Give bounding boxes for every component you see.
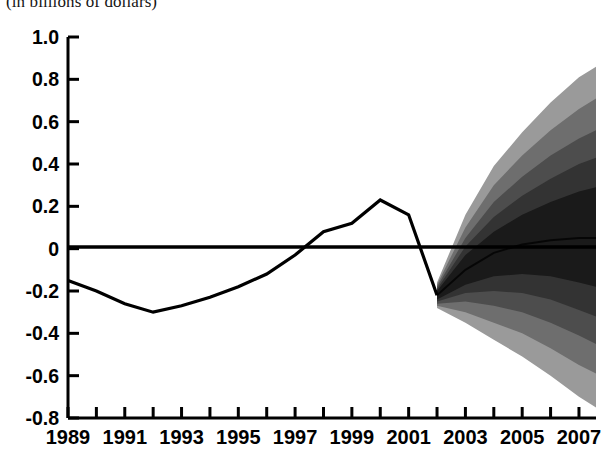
x-tick-label: 2003 — [443, 426, 488, 448]
x-tick-label: 1989 — [46, 426, 91, 448]
y-axis-ticks — [68, 37, 79, 418]
projection-fan-bands — [437, 67, 596, 408]
y-tick-label: 0.4 — [32, 153, 59, 175]
y-tick-label: 1.0 — [32, 26, 59, 48]
fan-chart-plot: 1.00.80.60.40.20-0.2-0.4-0.6-0.8 1989199… — [0, 0, 607, 463]
y-tick-label: 0.6 — [32, 111, 59, 133]
x-tick-label: 1995 — [216, 426, 261, 448]
x-axis-tick-labels: 1989199119931995199719992001200320052007 — [46, 426, 601, 448]
y-tick-label: 0 — [48, 238, 59, 260]
y-tick-label: 0.8 — [32, 68, 59, 90]
x-tick-label: 1997 — [273, 426, 318, 448]
x-tick-label: 2007 — [557, 426, 602, 448]
x-tick-label: 1999 — [330, 426, 375, 448]
y-tick-label: -0.4 — [25, 322, 59, 344]
x-tick-label: 1991 — [103, 426, 148, 448]
y-tick-label: -0.6 — [25, 365, 59, 387]
y-axis-tick-labels: 1.00.80.60.40.20-0.2-0.4-0.6-0.8 — [25, 26, 59, 429]
historical-series-line — [68, 200, 437, 312]
y-tick-label: 0.2 — [32, 195, 59, 217]
x-tick-label: 2001 — [386, 426, 431, 448]
x-axis-ticks — [68, 407, 579, 418]
chart-figure: (in billions of dollars) 1.00.80.60.40.2… — [0, 0, 607, 463]
x-tick-label: 2005 — [500, 426, 545, 448]
x-tick-label: 1993 — [159, 426, 204, 448]
y-tick-label: -0.2 — [25, 280, 59, 302]
